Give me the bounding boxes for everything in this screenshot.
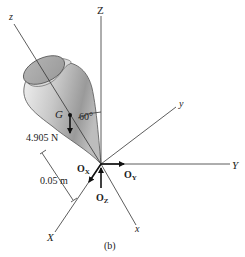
body-shape xyxy=(19,50,101,164)
label-distance: 0.05 m xyxy=(40,175,68,186)
label-ox: OX xyxy=(77,163,90,176)
label-global-y: Y xyxy=(232,159,240,171)
label-g: G xyxy=(55,108,63,120)
label-global-x: X xyxy=(46,231,55,243)
label-local-y: y xyxy=(178,98,184,109)
label-oz: OZ xyxy=(96,192,109,205)
label-global-z: Z xyxy=(97,4,104,16)
local-y-axis xyxy=(101,107,176,164)
figure-caption: (b) xyxy=(104,240,116,252)
axes xyxy=(14,16,230,232)
dimension-tick-top xyxy=(40,150,46,154)
label-local-x: x xyxy=(134,223,140,234)
label-oy: OY xyxy=(124,169,137,182)
label-local-z: z xyxy=(8,11,13,22)
label-weight: 4.905 N xyxy=(26,132,58,143)
ox-arrow xyxy=(89,164,101,182)
free-body-diagram: Z Y X z y x G 60° 4.905 N 0.05 m OX OY O… xyxy=(0,0,245,257)
diagram-canvas: Z Y X z y x G 60° 4.905 N 0.05 m OX OY O… xyxy=(0,0,245,257)
label-angle: 60° xyxy=(79,111,93,122)
